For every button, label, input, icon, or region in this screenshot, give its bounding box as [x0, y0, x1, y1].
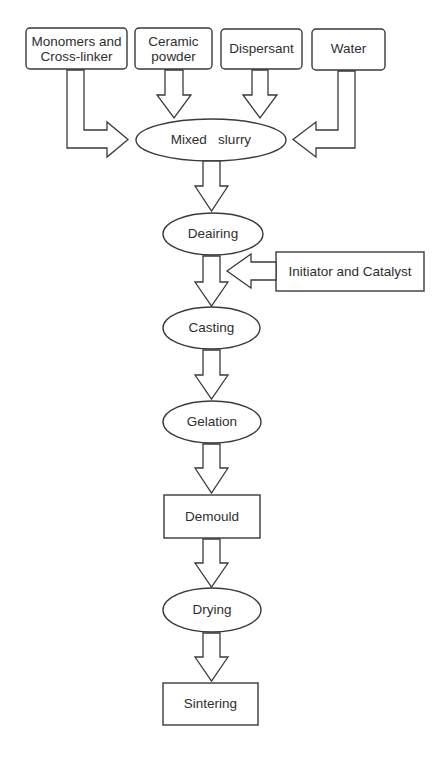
node-drying: Drying — [163, 588, 261, 632]
arrow-monomers-to-slurry-icon — [67, 70, 128, 157]
node-gelation: Gelation — [163, 401, 261, 443]
node-monomers-cross-linker: Monomers and Cross-linker — [26, 28, 127, 69]
node-label-line1: Monomers and — [31, 34, 121, 49]
arrow-ceramic-to-slurry-icon — [157, 70, 191, 118]
node-label: Sintering — [184, 696, 237, 711]
node-label: Water — [331, 41, 367, 56]
node-sintering: Sintering — [163, 683, 258, 725]
node-label: Mixed slurry — [171, 132, 252, 147]
node-label: Drying — [192, 602, 231, 617]
node-label: Dispersant — [229, 41, 294, 56]
arrow-deairing-to-casting-icon — [195, 256, 228, 306]
arrow-demould-to-drying-icon — [195, 539, 228, 587]
node-label-line2: Cross-linker — [40, 49, 113, 64]
node-label: Gelation — [187, 414, 237, 429]
node-mixed-slurry: Mixed slurry — [136, 119, 286, 161]
arrow-initiator-to-casting-icon — [227, 254, 276, 288]
node-label: Deairing — [188, 226, 238, 241]
node-label-line2: powder — [151, 49, 196, 64]
gelcasting-process-flowchart: Monomers and Cross-linker Ceramic powder… — [0, 0, 443, 758]
node-deairing: Deairing — [163, 213, 263, 255]
node-dispersant: Dispersant — [221, 29, 302, 69]
node-ceramic-powder: Ceramic powder — [135, 28, 212, 69]
arrow-gelation-to-demould-icon — [195, 444, 228, 493]
arrow-dispersant-to-slurry-icon — [243, 70, 277, 118]
node-label: Initiator and Catalyst — [288, 264, 411, 279]
node-label-line1: Ceramic — [148, 34, 199, 49]
arrow-water-to-slurry-icon — [293, 71, 355, 157]
arrow-casting-to-gelation-icon — [195, 350, 228, 399]
node-label: Casting — [189, 320, 235, 335]
node-demould: Demould — [164, 495, 260, 538]
node-label: Demould — [185, 509, 239, 524]
arrow-slurry-to-deairing-icon — [195, 161, 228, 211]
node-water: Water — [312, 29, 385, 70]
arrow-drying-to-sintering-icon — [195, 633, 228, 681]
node-initiator-catalyst: Initiator and Catalyst — [276, 252, 424, 291]
node-casting: Casting — [163, 307, 260, 349]
